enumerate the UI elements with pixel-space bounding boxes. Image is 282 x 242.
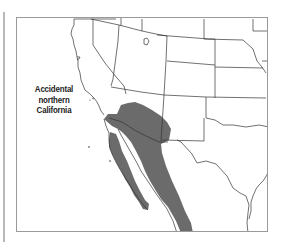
range-map: Accidental northern California — [16, 17, 268, 232]
left-page-rule — [3, 12, 5, 242]
annotation-line-2: northern — [32, 95, 76, 106]
annotation-line-3: California — [32, 105, 76, 116]
accidental-range-annotation: Accidental northern California — [32, 84, 76, 116]
range-area — [104, 102, 193, 232]
map-svg — [16, 17, 268, 232]
annotation-line-1: Accidental — [32, 84, 76, 95]
islands — [88, 99, 111, 161]
